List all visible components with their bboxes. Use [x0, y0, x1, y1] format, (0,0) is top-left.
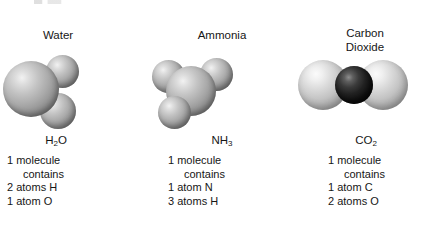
molecule-panel-water: Water H2O 1 molecule contains 2 atoms H …	[0, 0, 140, 227]
formula-subscript: 3	[228, 139, 232, 148]
caption-line-4: 3 atoms H	[168, 195, 225, 209]
ammonia-hydrogen-atom-3	[158, 96, 191, 129]
caption-line-2: contains	[7, 168, 64, 182]
formula-subscript: 2	[372, 139, 376, 148]
molecule-formula-carbon-dioxide: CO2	[310, 133, 422, 149]
molecule-caption-carbon-dioxide: 1 molecule contains 1 atom C 2 atoms O	[328, 154, 385, 208]
caption-line-1: 1 molecule	[7, 154, 64, 168]
caption-line-1: 1 molecule	[328, 154, 385, 168]
molecule-panel-carbon-dioxide: Carbon Dioxide CO2 1 molecule contains 1…	[290, 0, 424, 227]
caption-line-3: 1 atom C	[328, 181, 385, 195]
caption-line-2: contains	[328, 168, 385, 182]
formula-suffix: O	[58, 134, 67, 146]
formula-subscript: 2	[53, 139, 57, 148]
molecule-panel-ammonia: Ammonia NH3 1 molecule contains 1 atom N…	[140, 0, 290, 227]
water-oxygen-atom	[3, 61, 59, 117]
formula-prefix: CO	[355, 134, 372, 146]
caption-line-3: 1 atom N	[168, 181, 225, 195]
molecule-caption-ammonia: 1 molecule contains 1 atom N 3 atoms H	[168, 154, 225, 208]
molecule-formula-water: H2O	[0, 133, 112, 149]
caption-line-4: 1 atom O	[7, 195, 64, 209]
caption-line-3: 2 atoms H	[7, 181, 64, 195]
formula-prefix: NH	[211, 134, 228, 146]
caption-line-1: 1 molecule	[168, 154, 225, 168]
molecule-caption-water: 1 molecule contains 2 atoms H 1 atom O	[7, 154, 64, 208]
molecule-figure: Water H2O 1 molecule contains 2 atoms H …	[0, 0, 424, 227]
co2-carbon-atom	[335, 66, 373, 104]
molecule-formula-ammonia: NH3	[148, 133, 296, 149]
caption-line-2: contains	[168, 168, 225, 182]
caption-line-4: 2 atoms O	[328, 195, 385, 209]
